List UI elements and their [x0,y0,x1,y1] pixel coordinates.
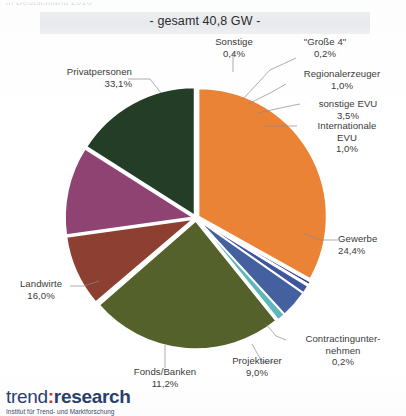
pie-slice-group [65,87,327,349]
label-internationale-evu-name2: EVU [296,132,398,144]
label-privatpersonen-name: Privatpersonen [67,66,132,77]
label-sonstige: Sonstige 0,4% [198,36,270,59]
label-contracting-name2: nehmen [282,345,404,357]
logo-word-part1: trend [6,386,48,407]
label-gewerbe-name: Gewerbe [338,233,377,244]
label-projektierer: Projektierer 9,0% [214,355,300,378]
label-contracting-name: Contractingunter- [306,333,381,344]
logo-wordmark: trend:research [6,387,131,407]
label-regionalerzeuger-name: Regionalerzeuger [304,68,381,79]
label-sonstige-evu-name: sonstige EVU [319,98,378,109]
label-contracting-value: 0,2% [282,356,404,368]
label-internationale-evu-value: 1,0% [296,143,398,155]
label-sonstige-value: 0,4% [198,48,270,60]
label-regionalerzeuger-value: 1,0% [284,80,400,92]
label-gewerbe: Gewerbe 24,4% [338,233,404,256]
label-grosse4-value: 0,2% [288,48,362,60]
logo-subtitle: Institut für Trend- und Marktforschung [6,408,131,415]
label-projektierer-value: 9,0% [214,367,300,379]
label-projektierer-name: Projektierer [232,355,282,366]
label-regionalerzeuger: Regionalerzeuger 1,0% [284,68,400,91]
label-contracting: Contractingunter- nehmen 0,2% [282,333,404,368]
label-privatpersonen: Privatpersonen 33,1% [4,66,132,89]
label-landwirte-name: Landwirte [20,278,62,289]
label-sonstige-evu: sonstige EVU 3,5% [298,98,398,121]
label-internationale-evu-name: Internationale [318,120,377,131]
trend-research-logo: trend:research Institut für Trend- und M… [6,387,131,415]
logo-word-part2: research [54,386,131,407]
leader-line-privatpersonen [128,79,161,93]
label-internationale-evu: Internationale EVU 1,0% [296,120,398,155]
label-grosse4: "Große 4" 0,2% [288,36,362,59]
label-landwirte: Landwirte 16,0% [8,278,74,301]
label-privatpersonen-value: 33,1% [4,78,132,90]
label-gewerbe-value: 24,4% [338,245,404,257]
label-grosse4-name: "Große 4" [304,36,346,47]
label-landwirte-value: 16,0% [8,290,74,302]
label-sonstige-name: Sonstige [215,36,253,47]
label-fonds-banken-name: Fonds/Banken [134,366,196,377]
